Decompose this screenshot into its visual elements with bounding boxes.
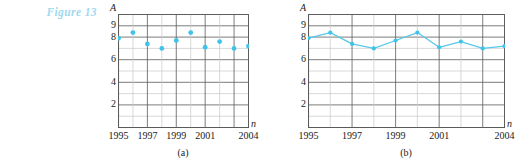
x-tick-label: 2001 — [429, 130, 449, 141]
data-point — [459, 40, 463, 44]
data-point — [350, 42, 354, 46]
y-tick-label: 6 — [295, 53, 306, 64]
y-tick-label: 2 — [105, 98, 116, 109]
x-tick-label: 1999 — [166, 130, 186, 141]
x-axis-name-a: n — [251, 118, 256, 129]
x-tick-label: 2004 — [495, 130, 515, 141]
x-tick-label: 1997 — [342, 130, 362, 141]
data-point — [203, 45, 208, 50]
data-point — [145, 41, 150, 46]
data-point — [328, 30, 332, 34]
data-point — [131, 30, 136, 35]
plot-area-a — [118, 14, 249, 128]
y-axis-name-b: A — [300, 2, 306, 13]
x-tick-label: 1995 — [299, 130, 319, 141]
y-axis-name-a: A — [110, 2, 116, 13]
y-tick-label: 6 — [105, 53, 116, 64]
panel-caption: (b) — [400, 147, 412, 158]
chart-panel-a: A n 9864219951997199920012004(a) — [104, 0, 259, 168]
y-tick-label: 8 — [105, 31, 116, 42]
x-tick-label: 1995 — [109, 130, 129, 141]
figure-label: Figure 13 — [17, 6, 97, 18]
y-tick-label: 8 — [295, 31, 306, 42]
data-point — [481, 46, 485, 50]
data-point — [394, 38, 398, 42]
data-point — [502, 44, 505, 48]
y-tick-label: 2 — [295, 98, 306, 109]
data-point — [188, 30, 193, 35]
chart-panel-b: A n 9864219951997199920012004(b) — [294, 0, 514, 168]
y-tick-label: 4 — [295, 76, 306, 87]
x-tick-label: 2004 — [239, 130, 259, 141]
panel-caption: (a) — [177, 147, 188, 158]
x-tick-label: 1999 — [386, 130, 406, 141]
x-tick-label: 2001 — [195, 130, 215, 141]
data-point — [232, 46, 237, 51]
chart-svg-b — [308, 14, 505, 128]
plot-area-b — [308, 14, 505, 128]
y-tick-label: 9 — [295, 19, 306, 30]
chart-svg-a — [118, 14, 249, 128]
data-point — [217, 39, 222, 44]
figure-root: Figure 13 A n 9864219951997199920012004(… — [0, 0, 518, 168]
data-point — [437, 45, 441, 49]
data-point — [415, 30, 419, 34]
x-axis-name-b: n — [507, 118, 512, 129]
data-point — [246, 44, 249, 49]
y-tick-label: 4 — [105, 76, 116, 87]
data-point — [159, 46, 164, 51]
y-tick-label: 9 — [105, 19, 116, 30]
x-tick-label: 1997 — [137, 130, 157, 141]
data-point — [372, 46, 376, 50]
data-point — [174, 38, 179, 43]
data-point — [118, 36, 121, 41]
